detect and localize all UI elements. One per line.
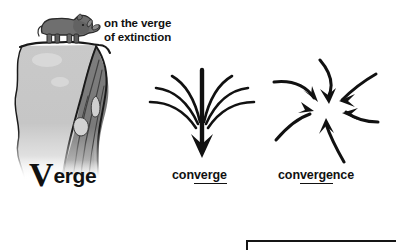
worksheet-page: on the verge of extinction Verge converg… (0, 0, 396, 250)
converge-label-prefix: con (172, 168, 194, 182)
convergence-label-suffix: nce (333, 168, 354, 182)
root-word-remainder: erge (54, 164, 97, 187)
bottom-right-frame-top-edge (246, 240, 396, 242)
converge-label-root: verge (194, 168, 227, 184)
root-word-capital-letter: V (29, 156, 54, 193)
converge-main-arrow (191, 70, 213, 158)
convergence-label-prefix: con (278, 168, 300, 182)
convergence-label-root: verge (300, 168, 333, 184)
converge-arrow-diagram (148, 58, 256, 166)
converge-label: converge (172, 168, 227, 182)
converge-diagram-svg (148, 58, 256, 166)
rhino-figure (38, 14, 100, 43)
convergence-diagram-svg (268, 58, 380, 164)
convergence-arrow-diagram (268, 58, 380, 164)
caption-on-the-verge-of-extinction: on the verge of extinction (104, 16, 196, 44)
root-word-verge: Verge (29, 158, 96, 192)
convergence-curved-arrows (274, 60, 378, 162)
cliff-illustration-panel: on the verge of extinction Verge (0, 0, 150, 200)
convergence-label: convergence (278, 168, 354, 182)
